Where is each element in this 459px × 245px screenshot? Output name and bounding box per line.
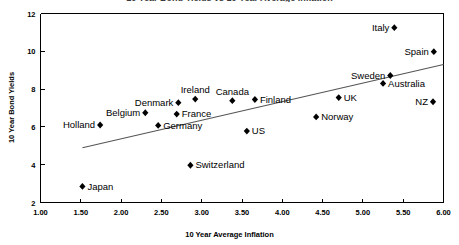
data-point: Switzerland bbox=[187, 159, 244, 170]
point-marker bbox=[192, 96, 198, 103]
point-label: NZ bbox=[415, 96, 428, 107]
y-tick-label: 10 bbox=[27, 47, 35, 56]
point-label: Italy bbox=[372, 22, 390, 33]
data-point: France bbox=[174, 108, 212, 119]
x-tick-label: 2.50 bbox=[154, 208, 169, 217]
x-tick-label: 3.50 bbox=[235, 208, 250, 217]
point-marker bbox=[155, 122, 161, 129]
point-marker bbox=[431, 48, 437, 55]
y-tick-label: 2 bbox=[31, 199, 35, 208]
data-point: Norway bbox=[313, 111, 354, 122]
data-point: Ireland bbox=[181, 84, 210, 102]
x-tick-label: 1.50 bbox=[73, 208, 88, 217]
x-tick-label: 5.00 bbox=[356, 208, 371, 217]
point-label: Germany bbox=[163, 120, 202, 131]
x-tick-label: 4.50 bbox=[315, 208, 330, 217]
axes bbox=[41, 14, 444, 203]
point-marker bbox=[380, 80, 386, 87]
x-tick-label: 2.00 bbox=[114, 208, 129, 217]
point-marker bbox=[252, 96, 258, 103]
data-point: Germany bbox=[155, 120, 202, 131]
point-label: France bbox=[182, 108, 212, 119]
point-marker bbox=[175, 99, 181, 106]
data-point: Japan bbox=[79, 181, 113, 192]
point-label: Japan bbox=[87, 181, 113, 192]
x-tick-label: 5.50 bbox=[396, 208, 411, 217]
data-point: Finland bbox=[252, 94, 291, 105]
point-marker bbox=[430, 98, 436, 105]
data-point: Spain bbox=[405, 46, 437, 57]
point-marker bbox=[229, 97, 235, 104]
x-tick-label: 6.00 bbox=[436, 208, 451, 217]
point-label: Holland bbox=[63, 119, 95, 130]
point-label: Finland bbox=[260, 94, 291, 105]
data-point: Italy bbox=[372, 22, 398, 33]
point-label: Australia bbox=[388, 78, 426, 89]
point-marker bbox=[244, 128, 250, 135]
data-points: JapanHollandBelgiumGermanyDenmarkFranceS… bbox=[63, 22, 437, 192]
y-tick-label: 6 bbox=[31, 123, 35, 132]
plot-area: JapanHollandBelgiumGermanyDenmarkFranceS… bbox=[0, 0, 459, 245]
data-point: Denmark bbox=[135, 97, 182, 108]
x-tick-label: 4.00 bbox=[275, 208, 290, 217]
point-label: Norway bbox=[321, 111, 353, 122]
point-label: Ireland bbox=[181, 84, 210, 95]
point-marker bbox=[391, 24, 397, 31]
point-label: UK bbox=[344, 92, 358, 103]
point-marker bbox=[97, 122, 103, 129]
point-marker bbox=[142, 109, 148, 116]
y-tick-label: 12 bbox=[27, 10, 35, 19]
point-label: Sweden bbox=[351, 70, 385, 81]
point-marker bbox=[336, 94, 342, 101]
y-axis-title: 10 Year Bond Yields bbox=[7, 53, 16, 163]
data-point: Sweden bbox=[351, 70, 393, 81]
point-marker bbox=[313, 113, 319, 120]
x-axis-title: 10 Year Average Inflation bbox=[0, 230, 459, 239]
y-tick-label: 8 bbox=[31, 85, 35, 94]
point-label: Denmark bbox=[135, 97, 174, 108]
point-marker bbox=[174, 111, 180, 118]
data-point: NZ bbox=[415, 96, 436, 107]
x-tick-label: 1.00 bbox=[33, 208, 48, 217]
point-label: Spain bbox=[405, 46, 429, 57]
y-tick-label: 4 bbox=[31, 161, 36, 170]
point-label: Canada bbox=[216, 86, 250, 97]
point-label: US bbox=[252, 125, 265, 136]
data-point: US bbox=[244, 125, 265, 136]
data-point: UK bbox=[336, 92, 358, 103]
point-marker bbox=[187, 162, 193, 169]
data-point: Australia bbox=[380, 78, 426, 89]
data-point: Canada bbox=[216, 86, 250, 104]
x-tick-label: 3.00 bbox=[194, 208, 209, 217]
data-point: Holland bbox=[63, 119, 103, 130]
scatter-chart: 10 Year Bond Yields vs 10 Year Average I… bbox=[0, 0, 459, 245]
point-label: Switzerland bbox=[195, 159, 244, 170]
data-point: Belgium bbox=[106, 107, 148, 118]
point-marker bbox=[79, 183, 85, 190]
point-label: Belgium bbox=[106, 107, 140, 118]
